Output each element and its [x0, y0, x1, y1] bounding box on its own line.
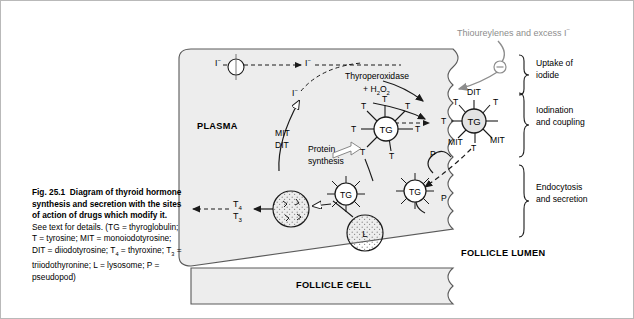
bracket-label-iodination-2: and coupling: [536, 117, 585, 127]
iodinated-tyrosine-4: T: [471, 143, 476, 153]
iodinated-tyrosine-2: T: [493, 97, 498, 107]
tyrosine-label-6: T: [360, 147, 365, 157]
pseudopod-label-lower: P: [441, 193, 447, 203]
bracket-group: [519, 55, 529, 237]
dit-label-top: DIT: [467, 87, 481, 97]
tyrosine-label-4: T: [351, 124, 356, 134]
drug-label: Thioureylenes and excess I−: [457, 26, 570, 38]
figure-legend-1: T = tyrosine; MIT = monoiodotyrosine;: [32, 233, 171, 243]
bracket-label-uptake-1: Uptake of: [536, 58, 573, 68]
figure-legend-2: DIT = diiodotyrosine; T4 = thyroxine;: [32, 245, 164, 255]
tyrosine-label-7: T: [389, 151, 394, 161]
protein-synthesis-label-1: Protein: [308, 144, 335, 154]
mit-recycle-label: MIT: [275, 128, 290, 138]
t3-label: T3: [233, 211, 242, 223]
figure-legend-0: See text for details. (TG = thyroglobuli…: [32, 222, 178, 232]
iodide-label-cell: I−: [305, 57, 311, 68]
tyrosine-label-5: T: [415, 124, 420, 134]
tyrosine-label-2: T: [382, 94, 387, 104]
follicle-lumen-label: FOLLICLE LUMEN: [461, 248, 545, 258]
mit-label-right: MIT: [490, 135, 505, 145]
iodinated-tyrosine-1: T: [453, 97, 458, 107]
bracket-label-iodination-1: Iodination: [536, 105, 573, 115]
bracket-label-endocytosis-1: Endocytosis: [536, 182, 582, 192]
figure-number: Fig. 25.1: [32, 187, 65, 197]
svg-text:TG: TG: [379, 124, 392, 135]
tyrosine-label-1: T: [361, 101, 366, 111]
lysosome: L: [347, 215, 383, 251]
bracket-iodination: [519, 93, 529, 157]
tg-vesicle-intracellular: TG: [327, 176, 365, 212]
dit-recycle-label: DIT: [275, 140, 289, 150]
iodide-label-apical: I−: [292, 87, 298, 98]
bracket-endocytosis: [519, 165, 529, 237]
svg-text:TG: TG: [409, 187, 421, 197]
iodide-label-plasma: I−: [215, 57, 221, 68]
t4-label: T4: [233, 199, 242, 211]
figure-caption: Fig. 25.1 Diagram of thyroid hormone syn…: [32, 187, 184, 283]
bracket-label-uptake-2: iodide: [536, 70, 559, 80]
figure-frame: TG TG: [0, 0, 634, 319]
pseudopod-label-upper: P: [430, 149, 436, 159]
svg-text:TG: TG: [467, 116, 480, 127]
secretory-vesicle: [273, 191, 309, 227]
tyrosine-label-3: T: [405, 101, 410, 111]
svg-text:L: L: [362, 228, 367, 239]
mit-label-left: MIT: [448, 137, 463, 147]
bracket-uptake: [519, 55, 529, 95]
iodinated-tyrosine-3: T: [441, 116, 446, 126]
thyroperoxidase-label: Thyroperoxidase: [345, 71, 409, 81]
plasma-label: PLASMA: [197, 121, 238, 131]
follicle-cell-label: FOLLICLE CELL: [296, 280, 371, 290]
protein-synthesis-label-2: synthesis: [308, 156, 344, 166]
inhibition-arrow: [459, 41, 506, 89]
svg-text:TG: TG: [340, 190, 352, 200]
bracket-label-endocytosis-2: and secretion: [536, 194, 588, 204]
tg-colloid-droplet: TG: [396, 173, 434, 209]
